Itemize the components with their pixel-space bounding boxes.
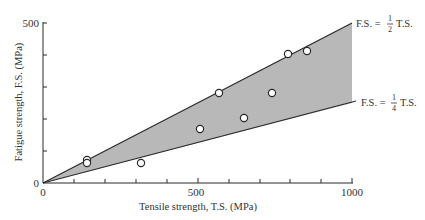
data-point <box>268 89 275 96</box>
upper-lhs: F.S. = <box>356 18 381 29</box>
data-point <box>83 159 90 166</box>
upper-rhs: T.S. <box>396 18 413 29</box>
upper-den: 2 <box>388 25 392 34</box>
upper-num: 1 <box>388 14 392 23</box>
data-point <box>303 47 310 54</box>
y-axis-title: Fatigue strength, F.S. (MPa) <box>13 42 25 161</box>
data-point <box>196 125 203 132</box>
upper-bound-annotation: F.S. = 1 2 T.S. <box>356 14 413 34</box>
data-point <box>215 89 222 96</box>
x-ticks <box>74 178 352 183</box>
lower-num: 1 <box>392 93 396 102</box>
data-point <box>240 114 247 121</box>
data-point <box>284 50 291 57</box>
x-axis-title: Tensile strength, T.S. (MPa) <box>139 201 257 213</box>
lower-bound-annotation: F.S. = 1 4 T.S. <box>361 93 417 113</box>
lower-rhs: T.S. <box>400 97 417 108</box>
y-tick-0: 0 <box>34 177 40 189</box>
y-tick-500: 500 <box>23 17 40 29</box>
x-tick-500: 500 <box>188 186 205 198</box>
data-point <box>137 159 144 166</box>
lower-den: 4 <box>392 104 396 113</box>
y-ticks <box>43 23 47 151</box>
x-tick-0: 0 <box>40 186 46 198</box>
chart: 500 0 0 500 1000 Tensile strength, T.S. … <box>0 0 425 220</box>
x-tick-1000: 1000 <box>341 186 364 198</box>
lower-lhs: F.S. = <box>361 97 386 108</box>
